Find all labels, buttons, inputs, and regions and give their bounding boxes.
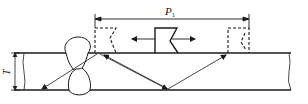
thickness-label: T: [1, 68, 12, 75]
weld-inspection-diagram: T P1: [0, 0, 308, 104]
probe-center: [155, 28, 178, 53]
sound-path-left: [42, 54, 168, 89]
probe-left-dashed: [95, 28, 116, 53]
sound-path-right: [100, 54, 226, 89]
probe-right-dashed: [228, 28, 249, 53]
dimension-t: [11, 53, 20, 90]
plate: [14, 53, 291, 90]
scan-distance-label: P1: [164, 5, 176, 19]
